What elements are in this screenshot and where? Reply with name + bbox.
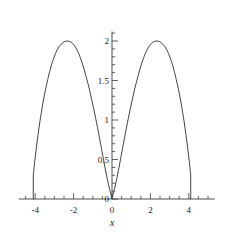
y-tick-label: 1 xyxy=(105,116,110,125)
x-tick-label: -2 xyxy=(70,206,78,215)
y-tick-label: 1.5 xyxy=(98,76,109,85)
x-tick-label: 0 xyxy=(110,206,115,215)
x-axis-title: x xyxy=(110,219,114,229)
y-tick-label: 0.5 xyxy=(98,155,109,164)
x-tick-label: -4 xyxy=(31,206,39,215)
y-tick-label: 0 xyxy=(105,195,110,204)
axes-group xyxy=(19,32,215,199)
y-tick-label: 2 xyxy=(105,37,110,46)
x-tick-label: 2 xyxy=(148,206,153,215)
plot-area: -4-2024 00.511.52 x xyxy=(0,0,225,232)
chart-canvas xyxy=(0,0,225,232)
x-tick-label: 4 xyxy=(187,206,192,215)
y-axis-minor-ticks xyxy=(112,33,115,191)
